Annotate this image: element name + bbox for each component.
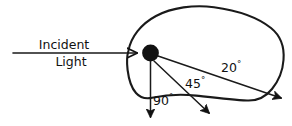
angle-label-45-degree: ° — [201, 75, 205, 85]
angle-label-45: 45° — [185, 75, 205, 91]
angle-label-20-value: 20 — [221, 60, 237, 75]
angle-label-20-degree: ° — [237, 59, 241, 69]
diagram-canvas: 20° 45° 90° Incident Light — [0, 0, 292, 126]
incident-light-label-line2: Light — [55, 54, 86, 69]
incident-light-label-line1: Incident — [39, 37, 90, 52]
angle-label-90-degree: ° — [169, 92, 173, 102]
scattering-diagram: 20° 45° 90° Incident Light — [0, 0, 292, 126]
angle-label-90-value: 90 — [153, 93, 169, 108]
angle-label-20: 20° — [221, 59, 241, 75]
scattered-ray-20deg — [158, 56, 281, 98]
scattering-particle-dot — [142, 45, 159, 62]
angle-label-90: 90° — [153, 92, 173, 108]
angle-label-45-value: 45 — [185, 76, 201, 91]
